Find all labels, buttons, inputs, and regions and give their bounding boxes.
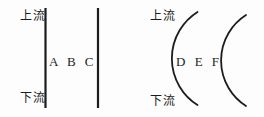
right-downstream-label: 下流 [150, 95, 175, 107]
right-section-letters: D E F [176, 55, 222, 68]
right-channel-curve-2 [221, 15, 246, 106]
left-downstream-label: 下流 [20, 92, 45, 104]
left-section-letters: A B C [49, 55, 97, 68]
left-upstream-label: 上流 [20, 10, 45, 22]
right-upstream-label: 上流 [150, 10, 175, 22]
channel-flow-diagram: 上流 下流 A B C 上流 下流 D E F [0, 0, 264, 117]
